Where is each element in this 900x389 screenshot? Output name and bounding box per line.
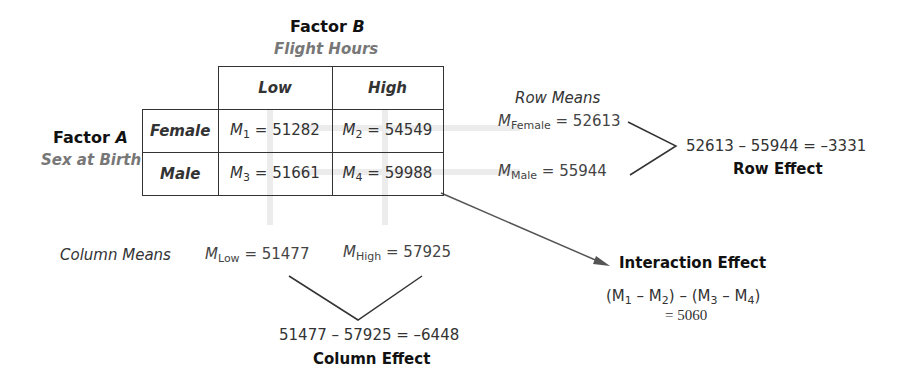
mean-symbol: M — [205, 245, 218, 263]
means-table: Low High Female M1 = 51282 M2 = 54549 Ma… — [142, 66, 444, 196]
formula-part: (M — [606, 287, 625, 305]
factor-b-subtitle: Flight Hours — [274, 40, 378, 58]
interaction-arrow — [441, 193, 600, 262]
table-row-male: Male M3 = 51661 M4 = 59988 — [143, 153, 444, 196]
cell-value: = 51282 — [255, 121, 320, 139]
mean-symbol: M — [343, 243, 356, 261]
column-header-high: High — [332, 67, 443, 110]
row-mean-female: MFemale = 52613 — [498, 112, 621, 132]
cell-subscript: 1 — [243, 128, 250, 141]
column-means-title: Column Means — [60, 246, 171, 264]
cell-value: = 59988 — [367, 164, 432, 182]
formula-part: ) – (M — [669, 287, 711, 305]
mean-value: = 52613 — [556, 112, 621, 130]
mean-value: = 57925 — [386, 243, 451, 261]
row-effect-label: Row Effect — [733, 160, 823, 178]
formula-part: ) — [754, 287, 760, 305]
factor-a-subtitle: Sex at Birth — [41, 151, 141, 169]
row-mean-male: MMale = 55944 — [498, 162, 607, 182]
interaction-result: = 5060 — [665, 307, 707, 324]
column-mean-low: MLow = 51477 — [205, 245, 309, 265]
column-effect-label: Column Effect — [313, 350, 430, 368]
mean-subscript: Low — [218, 252, 240, 265]
formula-part: – M — [632, 287, 662, 305]
cell-m3: M3 = 51661 — [218, 153, 332, 196]
row-header-male: Male — [143, 153, 219, 196]
arrowhead-icon — [593, 256, 610, 266]
formula-part: – M — [717, 287, 747, 305]
column-effect-equation: 51477 – 57925 = –6448 — [279, 326, 459, 344]
cell-subscript: 4 — [356, 171, 363, 184]
formula-subscript: 1 — [625, 294, 632, 307]
corner-cell — [143, 67, 219, 110]
factor-a-letter: A — [115, 128, 127, 147]
mean-value: = 51477 — [244, 245, 309, 263]
factor-b-prefix: Factor — [290, 17, 352, 36]
mean-value: = 55944 — [542, 162, 607, 180]
cell-symbol: M — [343, 121, 356, 139]
cell-value: = 54549 — [367, 121, 432, 139]
interaction-effect-title: Interaction Effect — [619, 254, 766, 272]
table-row-female: Female M1 = 51282 M2 = 54549 — [143, 110, 444, 153]
factor-a-prefix: Factor — [53, 128, 115, 147]
cell-symbol: M — [343, 164, 356, 182]
formula-subscript: 2 — [662, 294, 669, 307]
column-effect-bracket — [289, 276, 422, 320]
column-header-low: Low — [218, 67, 332, 110]
row-means-title: Row Means — [515, 89, 600, 107]
factor-a-title: Factor A — [53, 128, 128, 147]
cell-symbol: M — [230, 121, 243, 139]
mean-symbol: M — [498, 162, 511, 180]
mean-subscript: Male — [511, 169, 537, 182]
interaction-formula: (M1 – M2) – (M3 – M4) — [606, 287, 760, 307]
mean-subscript: Female — [511, 119, 551, 132]
cell-m1: M1 = 51282 — [218, 110, 332, 153]
cell-symbol: M — [230, 164, 243, 182]
cell-m4: M4 = 59988 — [332, 153, 443, 196]
column-mean-high: MHigh = 57925 — [343, 243, 451, 263]
row-header-female: Female — [143, 110, 219, 153]
table-header-row: Low High — [143, 67, 444, 110]
cell-value: = 51661 — [255, 164, 320, 182]
factor-b-letter: B — [352, 17, 364, 36]
row-effect-equation: 52613 – 55944 = –3331 — [686, 137, 866, 155]
factor-b-title: Factor B — [290, 17, 365, 36]
row-effect-bracket — [628, 122, 676, 175]
mean-subscript: High — [356, 250, 381, 263]
cell-subscript: 2 — [356, 128, 363, 141]
cell-subscript: 3 — [243, 171, 250, 184]
mean-symbol: M — [498, 112, 511, 130]
cell-m2: M2 = 54549 — [332, 110, 443, 153]
